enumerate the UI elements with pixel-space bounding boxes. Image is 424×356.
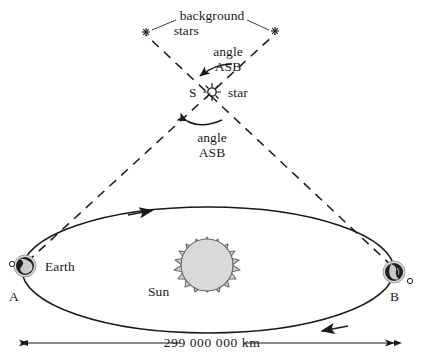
background-star-right-icon [271, 27, 279, 35]
angle-asb-upper-label: angle ASB [213, 44, 243, 74]
orbit-direction-arrow-bottom [322, 326, 348, 331]
angle-asb-upper-line1: angle [213, 44, 243, 59]
earth-label: Earth [45, 259, 75, 274]
angle-asb-upper-line2: ASB [213, 59, 243, 74]
parallax-diagram: background stars angle ASB S star angle … [0, 0, 424, 356]
earth-globe-b-icon [383, 261, 405, 283]
point-b-label: B [390, 289, 399, 304]
angle-asb-lower-line1: angle [197, 130, 227, 145]
background-star-right-leader [247, 20, 269, 30]
angle-asb-lower-label: angle ASB [197, 130, 227, 160]
point-a-label: A [9, 289, 19, 304]
background-star-left-icon [142, 28, 150, 36]
distance-label: 299 000 000 km [164, 335, 261, 350]
star-word-label: star [228, 85, 248, 100]
background-stars-label: background stars [180, 8, 245, 38]
background-stars-line2: stars [174, 23, 245, 38]
angle-asb-lower-line2: ASB [197, 145, 227, 160]
sun-icon [174, 237, 240, 292]
background-star-left-leader [152, 20, 176, 30]
star-burst-icon [204, 84, 221, 101]
moon-a-icon [9, 261, 14, 266]
angle-arc-lower [187, 120, 222, 125]
moon-b-icon [407, 278, 412, 283]
earth-globe-a-icon [14, 255, 36, 277]
diagram-canvas [0, 0, 424, 356]
background-stars-line1: background [180, 8, 245, 23]
sun-label: Sun [148, 284, 169, 299]
star-point-label: S [189, 85, 197, 100]
